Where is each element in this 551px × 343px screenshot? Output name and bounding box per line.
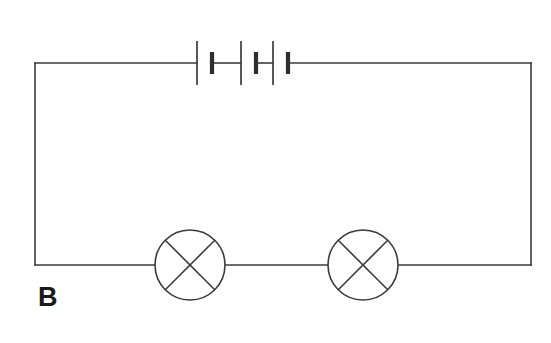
lamp-right [328,230,398,300]
wire-group [35,63,531,265]
circuit-schematic [0,0,551,343]
battery-cell-3 [273,41,288,85]
diagram-label: B [38,284,58,311]
battery-cell-1 [197,41,212,85]
battery-three-cells [197,41,288,85]
circuit-diagram-canvas: B [0,0,551,343]
battery-cell-2 [241,41,256,85]
lamp-left [155,230,225,300]
